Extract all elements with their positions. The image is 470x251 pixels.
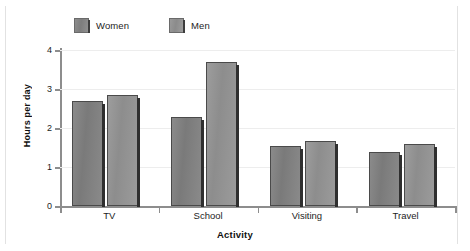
legend-item-men: Men (169, 18, 210, 33)
legend-swatch-women-icon (74, 18, 89, 33)
y-axis-tick-mark (55, 89, 60, 91)
x-axis-title: Activity (0, 229, 470, 240)
plot-area: 01234 (60, 50, 455, 206)
legend-swatch-men-icon (169, 18, 184, 33)
bar-tv-women (72, 101, 103, 206)
chart-legend: Women Men (74, 14, 210, 36)
bar-school-women (171, 117, 202, 206)
gridline (60, 50, 455, 51)
bar-chart-figure: Women Men Hours per day 01234 Activity T… (0, 0, 470, 251)
legend-item-women: Women (74, 18, 129, 33)
bar-school-men (206, 62, 237, 206)
bar-tv-men (107, 95, 138, 206)
y-axis-tick-mark (55, 128, 60, 130)
bar-visiting-women (270, 146, 301, 206)
gridline (60, 89, 455, 90)
y-axis-tick-label: 0 (47, 201, 52, 211)
legend-label-women: Women (96, 20, 129, 31)
y-axis-tick-mark (55, 167, 60, 169)
x-axis-category-separator (60, 206, 62, 213)
y-axis-tick-label: 1 (47, 162, 52, 172)
y-axis-tick-mark (55, 50, 60, 52)
bar-visiting-men (305, 141, 336, 206)
x-axis-category-separator (159, 206, 161, 213)
y-axis-tick-label: 2 (47, 123, 52, 133)
x-axis-category-separator (356, 206, 358, 213)
x-axis-category-separator (258, 206, 260, 213)
x-axis-category-label-visiting: Visiting (292, 210, 322, 221)
y-axis-title: Hours per day (22, 84, 36, 147)
bar-travel-men (404, 144, 435, 206)
x-axis-category-label-tv: TV (103, 210, 115, 221)
bar-travel-women (369, 152, 400, 206)
x-axis-category-label-travel: Travel (393, 210, 419, 221)
y-axis-tick-label: 4 (47, 45, 52, 55)
x-axis-category-separator (455, 206, 457, 213)
y-axis-tick-label: 3 (47, 84, 52, 94)
legend-label-men: Men (191, 20, 210, 31)
x-axis-category-label-school: School (194, 210, 223, 221)
